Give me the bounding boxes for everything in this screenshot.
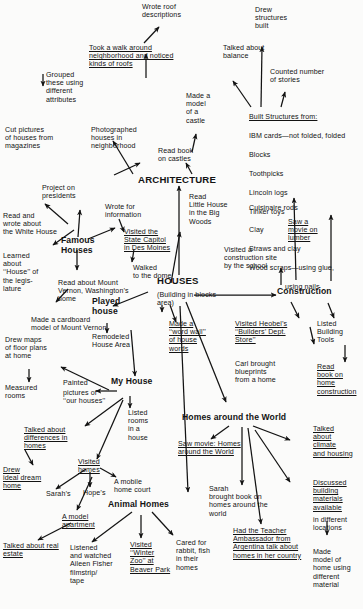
node-drew-ideal-dream-home: Drew ideal dream home <box>3 466 41 491</box>
node-wrote-for-information: Wrote for information <box>105 203 141 219</box>
node-pictures-of-our-houses: pictures of ‘‘our houses’’ <box>63 389 106 405</box>
hub-construction[interactable]: Construction <box>277 287 332 297</box>
node-project-on-presidents: Project on presidents <box>42 184 76 200</box>
node-made-word-wall: Made a ‘‘word wall’’ of house words <box>169 320 206 353</box>
node-visited-construction-site: Visited a construction site by the schoo… <box>224 246 277 271</box>
node-made-model-of-home: Made model of home using different mater… <box>313 548 351 589</box>
hub-my-house[interactable]: My House <box>111 377 152 387</box>
node-painted-label: Painted <box>63 379 88 387</box>
node-listened-aileen-fisher: Listened and watched Aileen Fisher films… <box>70 544 113 585</box>
node-measured-rooms: Measured rooms <box>5 384 37 400</box>
built-structures-heading: Built Structures from: <box>249 113 345 122</box>
node-read-book-on-home-construction: Read book on home construction <box>317 363 356 396</box>
node-took-a-walk: Took a walk around neighborhood and noti… <box>89 44 173 69</box>
node-built-structures-list: Built Structures from: IBM cards—not fol… <box>249 104 345 302</box>
node-cuisinaire-rods: Cuisinaire rods <box>249 204 298 212</box>
node-drew-structures-built: Drew structures built <box>255 6 287 31</box>
node-carl-brought-blueprints: Carl brought blueprints from a home <box>235 360 276 385</box>
built-structures-item: IBM cards—not folded, folded <box>249 132 345 141</box>
built-structures-item: Toothpicks <box>249 170 345 179</box>
node-listed-building-tools: Listed Building Tools <box>317 320 343 345</box>
hub-houses[interactable]: HOUSES <box>157 275 199 286</box>
node-drew-maps-floor-plans: Drew maps of floor plans at home <box>5 336 47 361</box>
node-photographed-houses: Photographed houses in neighborhood <box>91 126 137 151</box>
node-talked-about-differences: Talked about differences in homes <box>24 426 67 451</box>
hub-played-house[interactable]: Played house <box>92 297 120 317</box>
hub-homes-around-the-world[interactable]: Homes around the World <box>182 413 286 423</box>
built-structures-item: Blocks <box>249 151 345 160</box>
node-cut-pictures: Cut pictures of houses from magazines <box>5 126 53 151</box>
node-made-a-model-castle: Made a model of a castle <box>186 92 210 125</box>
node-visited-state-capitol: Visited the State Capitol in Des Moines <box>124 228 170 253</box>
hub-famous-houses[interactable]: Famous Houses <box>61 236 95 256</box>
node-had-teacher-ambassador: Had the Teacher Ambassador from Argentin… <box>233 527 301 560</box>
node-made-cardboard-model: Made a cardboard model of Mount Vernon <box>31 316 106 332</box>
node-listed-rooms-in-a-house: Listed rooms in a house <box>128 409 148 442</box>
built-structures-item: Lincoln logs <box>249 189 345 198</box>
node-in-different-locations: in different locations <box>313 516 347 532</box>
hub-animal-homes[interactable]: Animal Homes <box>108 500 169 510</box>
node-hopes: Hope’s <box>83 489 106 497</box>
node-read-little-house: Read Little House in the Big Woods <box>189 193 228 226</box>
node-learned-about-house-legislature: Learned about ‘‘House’’ of the legis- la… <box>3 252 38 293</box>
node-saw-movie-homes-around-world: Saw movie: Homes around the World <box>178 440 241 456</box>
node-read-book-on-castles: Read book on castles <box>158 147 193 163</box>
node-building-in-blocks-area: (Building in blocks area) <box>157 291 216 307</box>
node-visited-heobels: Visited Heobel’s ‘‘Builders’ Dept. Store… <box>235 320 287 345</box>
node-cared-for-rabbit: Cared for rabbit, fish in their homes <box>176 539 210 572</box>
node-talked-about-climate: Talked about climate and housing <box>313 425 353 458</box>
node-read-and-wrote-white-house: Read and wrote about the White House <box>3 212 57 237</box>
node-talked-about-balance: Talked about balance <box>223 44 264 60</box>
node-visited-homes: Visited homes <box>78 458 100 474</box>
node-wrote-roof-descriptions: Wrote roof descriptions <box>142 3 181 19</box>
node-talked-about-real-estate: Talked about real estate <box>3 542 59 558</box>
hub-architecture[interactable]: ARCHITECTURE <box>138 174 216 185</box>
node-remodeled-house-area: Remodeled House Area <box>92 333 130 349</box>
node-sarahs: Sarah’s <box>46 490 71 498</box>
node-sarah-brought-book: Sarah brought book on homes around the w… <box>209 485 268 518</box>
node-counted-number-of-stories: Counted number of stories <box>270 68 324 84</box>
concept-map-canvas: Wrote roof descriptions Took a walk arou… <box>0 0 363 609</box>
node-discussed-building-materials: Discussed building materials available <box>313 479 347 512</box>
node-saw-a-movie-on-lumber: Saw a movie on lumber <box>288 218 318 243</box>
node-a-model-apartment: A model apartment <box>62 513 95 529</box>
node-a-mobile-home-court: A mobile home court <box>114 478 151 494</box>
node-grouped-these: Grouped these using different attributes <box>46 71 83 104</box>
node-visited-winter-zoo: Visited ‘‘Winter Zoo’’ at Beaver Park <box>130 541 170 574</box>
